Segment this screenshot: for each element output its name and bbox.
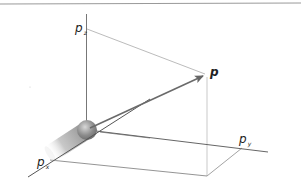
floor-line-px-to-corner (50, 160, 207, 176)
top-rule (0, 3, 301, 4)
vector-p-label: p (210, 66, 219, 78)
px-label: px (37, 156, 48, 168)
projection-pz-to-p (87, 29, 205, 74)
origin-sphere (77, 120, 97, 140)
speck (29, 86, 30, 87)
vector-p-arrow (90, 76, 203, 128)
pz-label: pz (75, 22, 86, 34)
floor-line-corner-to-py (207, 148, 242, 176)
py-label: py (239, 133, 250, 145)
momentum-diagram: pz p px py (0, 0, 301, 193)
